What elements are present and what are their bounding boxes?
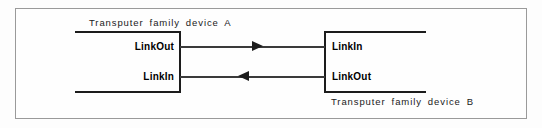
device-a-caption: Transputer family device A	[89, 17, 231, 28]
device-a-bottom-border	[75, 91, 181, 93]
device-a-port-linkin-label: LinkIn	[88, 71, 174, 82]
arrowhead-right-icon	[252, 41, 263, 51]
device-b-left-border	[324, 31, 326, 93]
device-b-bottom-border	[324, 91, 426, 93]
arrowhead-left-icon	[238, 71, 249, 81]
device-b-port-linkin-label: LinkIn	[332, 41, 363, 52]
device-a-top-border	[75, 31, 181, 33]
device-b-top-border	[324, 31, 426, 33]
connection-b-linkout-to-a-linkin	[180, 76, 325, 78]
transputer-link-diagram: Transputer family device A LinkOut LinkI…	[0, 0, 542, 128]
device-b-caption: Transputer family device B	[331, 96, 474, 107]
device-b-port-linkout-label: LinkOut	[332, 71, 371, 82]
device-a-right-border	[179, 31, 181, 93]
device-a-port-linkout-label: LinkOut	[88, 41, 174, 52]
